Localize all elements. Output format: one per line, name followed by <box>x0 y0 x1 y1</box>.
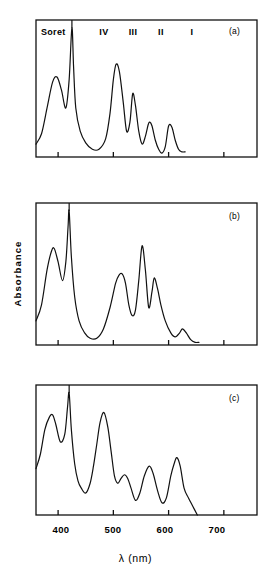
x-tick-label-400: 400 <box>53 524 70 535</box>
absorption-spectra-figure: Absorbance Soret IV III II I (a) (b) (c)… <box>0 0 271 577</box>
x-tick-labels: 400 500 600 700 <box>0 0 271 577</box>
x-tick-label-600: 600 <box>157 524 174 535</box>
x-tick-label-500: 500 <box>105 524 122 535</box>
x-axis-label: λ (nm) <box>0 552 271 564</box>
x-tick-label-700: 700 <box>209 524 226 535</box>
